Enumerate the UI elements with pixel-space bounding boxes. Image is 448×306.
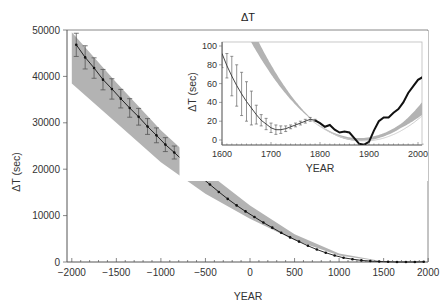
x-tick-label: 1000 [328,267,351,278]
data-point [111,88,114,91]
data-point [342,257,345,260]
x-tick-label: −1000 [147,267,176,278]
data-point [414,261,417,264]
main-x-ticks [72,258,428,262]
data-point [102,78,105,81]
x-tick-label: −1500 [102,267,131,278]
data-point [324,251,327,254]
data-point [387,261,390,264]
data-point [218,191,221,194]
data-point [146,125,149,128]
y-tick-label: 50000 [32,25,60,36]
data-point [351,258,354,261]
data-point [93,67,96,70]
data-point [164,143,167,146]
data-point [235,204,238,207]
x-tick-label: 1500 [373,267,396,278]
data-point [137,115,140,118]
inset-x-tick-label: 2000 [408,149,428,159]
data-point [298,240,301,243]
data-point [333,254,336,257]
data-point [316,248,319,251]
x-tick-label: 0 [247,267,253,278]
inset-x-tick-label: 1600 [212,149,232,159]
data-point [396,261,399,264]
inset-y-tick-label: 40 [207,97,217,107]
data-point [84,56,87,59]
main-x-tick-labels: −2000−1500−1000−5000500100015002000 [58,267,440,278]
inset-y-axis-label: ΔT (sec) [186,72,198,112]
data-point [271,226,274,229]
data-point [307,244,310,247]
y-tick-label: 0 [54,257,60,268]
x-tick-label: −2000 [58,267,87,278]
main-y-ticks [63,30,67,262]
inset-x-tick-label: 1900 [359,149,379,159]
y-tick-label: 20000 [32,164,60,175]
delta-t-chart: ΔT −2000−1500−1000−5000500100015002000 0… [0,0,448,306]
data-point [226,198,229,201]
data-point [405,261,408,264]
inset-x-tick-label: 1800 [310,149,330,159]
main-x-axis-label: YEAR [234,290,263,302]
data-point [262,221,265,224]
data-point [209,183,212,186]
data-point [128,107,131,110]
data-point [280,231,283,234]
y-tick-label: 40000 [32,71,60,82]
inset-y-tick-label: 100 [202,41,217,51]
inset-y-tick-label: 60 [207,79,217,89]
data-point [289,236,292,239]
x-tick-label: 500 [286,267,303,278]
data-point [422,260,425,263]
main-y-axis-label: ΔT (sec) [10,152,22,192]
main-y-tick-labels: 01000020000300004000050000 [32,25,60,268]
data-point [155,134,158,137]
data-point [244,210,247,213]
data-point [75,44,78,47]
data-point [360,259,363,262]
y-tick-label: 10000 [32,210,60,221]
data-point [120,97,123,100]
chart-title: ΔT [241,11,255,23]
data-point [173,151,176,154]
x-tick-label: −500 [194,267,217,278]
inset-x-tick-label: 1700 [261,149,281,159]
inset-x-axis-label: YEAR [306,162,335,174]
x-tick-label: 2000 [417,267,440,278]
data-point [369,260,372,263]
inset-y-tick-label: 80 [207,60,217,70]
y-tick-label: 30000 [32,117,60,128]
data-point [378,260,381,263]
inset-plot: 16001700180019002000 020406080100 YEAR Δ… [180,6,428,181]
data-point [253,216,256,219]
inset-y-tick-label: 20 [207,116,217,126]
inset-y-tick-label: 0 [212,135,217,145]
